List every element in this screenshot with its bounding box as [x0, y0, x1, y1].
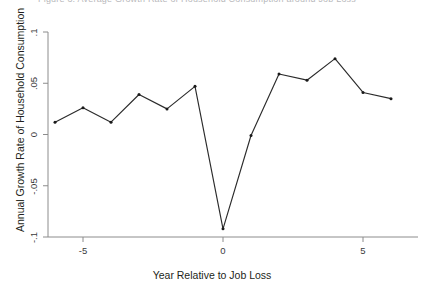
data-point — [138, 93, 141, 96]
x-axis-title: Year Relative to Job Loss — [0, 269, 424, 281]
y-tick-label-0.05: .05 — [28, 73, 39, 95]
data-point — [362, 91, 365, 94]
series-line — [55, 59, 391, 229]
x-tick-label-neg5: -5 — [68, 245, 98, 256]
data-point — [390, 97, 393, 100]
data-point — [82, 106, 85, 109]
y-axis-title: Annual Growth Rate of Household Consumpt… — [14, 8, 26, 232]
data-point — [54, 121, 57, 124]
chart-figure: Figure 3: Average Growth Rate of Househo… — [0, 0, 424, 289]
data-point — [222, 227, 225, 230]
x-tick-label-5: 5 — [348, 245, 378, 256]
y-axis-group — [43, 32, 48, 237]
x-axis-group — [48, 237, 418, 242]
y-tick-label-0.1: .1 — [28, 22, 39, 44]
y-tick-label-neg0.1: -.1 — [28, 227, 39, 249]
y-tick-label-neg0.05: -.05 — [28, 176, 39, 198]
series-markers — [54, 57, 393, 230]
data-point — [334, 57, 337, 60]
data-point — [278, 73, 281, 76]
data-point — [110, 121, 113, 124]
x-tick-label-0: 0 — [208, 245, 238, 256]
data-point — [250, 134, 253, 137]
data-point — [166, 107, 169, 110]
data-point — [194, 85, 197, 88]
y-tick-label-0: 0 — [28, 124, 39, 146]
data-point — [306, 79, 309, 82]
